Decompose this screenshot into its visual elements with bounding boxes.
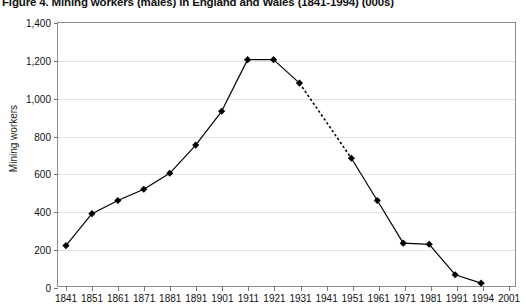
series-segment xyxy=(403,243,429,244)
series-segment xyxy=(274,60,300,83)
y-tick-label: 0 xyxy=(45,283,51,294)
x-tick-label: 1961 xyxy=(368,293,390,304)
x-tick-mark xyxy=(144,286,145,291)
x-tick-mark xyxy=(274,286,275,291)
series-segment xyxy=(377,201,403,244)
figure-container: Figure 4. Mining workers (males) in Engl… xyxy=(0,0,526,304)
x-tick-label: 1911 xyxy=(238,293,260,304)
data-point-marker xyxy=(244,56,251,63)
series-segment xyxy=(170,145,196,173)
data-point-marker xyxy=(114,197,121,204)
x-tick-mark xyxy=(327,286,328,291)
y-tick-label: 800 xyxy=(34,131,51,142)
series-segment xyxy=(66,214,92,246)
x-tick-label: 1981 xyxy=(420,293,442,304)
series-segment xyxy=(429,244,455,274)
x-tick-label: 1881 xyxy=(159,293,181,304)
y-axis-title: Mining workers xyxy=(8,79,19,199)
data-point-marker xyxy=(374,197,381,204)
data-point-marker xyxy=(478,280,485,287)
x-tick-mark xyxy=(248,286,249,291)
x-tick-label: 1991 xyxy=(446,293,468,304)
x-tick-mark xyxy=(222,286,223,291)
x-tick-mark xyxy=(66,286,67,291)
series-segment xyxy=(222,60,248,112)
y-tick-mark xyxy=(54,288,58,289)
x-tick-mark xyxy=(379,286,380,291)
series-segment xyxy=(92,201,118,214)
y-tick-label: 400 xyxy=(34,207,51,218)
x-tick-mark xyxy=(457,286,458,291)
x-tick-label: 1994 xyxy=(472,293,494,304)
x-tick-mark xyxy=(353,286,354,291)
plot-area: 02004006008001,0001,2001,400 18411851186… xyxy=(57,22,516,287)
y-tick-label: 1,400 xyxy=(26,18,51,29)
series-segment-dashed xyxy=(299,83,351,158)
x-tick-label: 1841 xyxy=(55,293,77,304)
series-mining-workers xyxy=(58,23,515,286)
y-tick-label: 200 xyxy=(34,245,51,256)
y-tick-label: 1,000 xyxy=(26,93,51,104)
x-tick-label: 1971 xyxy=(394,293,416,304)
x-tick-mark xyxy=(196,286,197,291)
x-tick-label: 2001 xyxy=(498,293,520,304)
x-tick-mark xyxy=(92,286,93,291)
y-tick-label: 1,200 xyxy=(26,55,51,66)
x-tick-label: 1901 xyxy=(211,293,233,304)
x-tick-label: 1861 xyxy=(107,293,129,304)
x-tick-label: 1931 xyxy=(289,293,311,304)
x-tick-mark xyxy=(301,286,302,291)
series-segment xyxy=(144,173,170,189)
x-tick-mark xyxy=(483,286,484,291)
chart-title: Figure 4. Mining workers (males) in Engl… xyxy=(2,0,524,11)
x-tick-mark xyxy=(431,286,432,291)
x-tick-label: 1851 xyxy=(81,293,103,304)
x-tick-mark xyxy=(509,286,510,291)
series-segment xyxy=(351,158,377,200)
data-point-marker xyxy=(140,186,147,193)
x-tick-label: 1871 xyxy=(133,293,155,304)
x-tick-label: 1951 xyxy=(342,293,364,304)
series-segment xyxy=(455,275,481,283)
x-tick-mark xyxy=(118,286,119,291)
data-point-marker xyxy=(400,240,407,247)
x-tick-label: 1941 xyxy=(315,293,337,304)
x-tick-label: 1891 xyxy=(185,293,207,304)
y-tick-label: 600 xyxy=(34,169,51,180)
x-tick-label: 1921 xyxy=(263,293,285,304)
x-tick-mark xyxy=(170,286,171,291)
series-segment xyxy=(118,189,144,200)
x-tick-mark xyxy=(405,286,406,291)
series-segment xyxy=(196,111,222,145)
